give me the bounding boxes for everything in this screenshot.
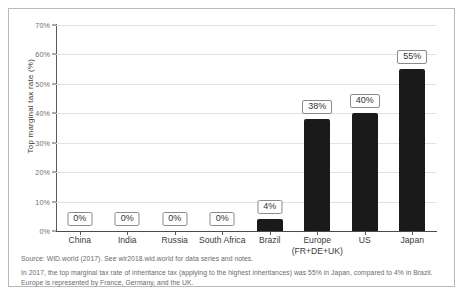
bar-group: 38% <box>294 25 342 231</box>
data-label-us: 40% <box>350 94 380 108</box>
category-label-line1: South Africa <box>199 235 245 245</box>
y-tick-label: 20% <box>35 168 50 177</box>
y-tick-label: 70% <box>35 21 50 30</box>
plot-area: 0%10%20%30%40%50%60%70% 0%0%0%0%4%38%40%… <box>56 25 436 231</box>
y-tick-label: 40% <box>35 109 50 118</box>
bar-group: 0% <box>151 25 199 231</box>
data-label-russia: 0% <box>162 212 187 226</box>
bar-group: 4% <box>246 25 294 231</box>
data-label-south-africa: 0% <box>210 212 235 226</box>
category-label-line1: China <box>69 235 91 245</box>
chart-notes: Source: WID.world (2017). See wir2018.wi… <box>21 254 451 287</box>
data-label-china: 0% <box>67 212 92 226</box>
bar-us[interactable] <box>352 113 378 231</box>
description-note: In 2017, the top marginal tax rate of in… <box>21 268 451 287</box>
category-label-line1: Japan <box>401 235 424 245</box>
bar-group: 0% <box>199 25 247 231</box>
y-tick-label: 10% <box>35 197 50 206</box>
chart-figure: Top marginal tax rate (%) 0%10%20%30%40%… <box>8 8 455 287</box>
category-label-russia: Russia <box>162 235 188 246</box>
category-label-line1: Brazil <box>259 235 281 245</box>
y-tick-label: 30% <box>35 138 50 147</box>
category-label-japan: Japan <box>401 235 424 246</box>
data-label-japan: 55% <box>397 50 427 64</box>
bar-group: 0% <box>56 25 104 231</box>
category-label-europe: Europe(FR+DE+UK) <box>292 235 343 256</box>
category-label-china: China <box>69 235 91 246</box>
bar-group: 0% <box>104 25 152 231</box>
data-label-europe-fr-de-uk: 38% <box>302 100 332 114</box>
category-label-us: US <box>359 235 371 246</box>
gridline-0% <box>56 231 436 232</box>
bar-group: 55% <box>389 25 437 231</box>
y-tick-label: 50% <box>35 79 50 88</box>
category-label-south-africa: South Africa <box>199 235 245 246</box>
category-label-line1: US <box>359 235 371 245</box>
data-label-india: 0% <box>115 212 140 226</box>
category-label-line1: Russia <box>162 235 188 245</box>
source-note: Source: WID.world (2017). See wir2018.wi… <box>21 254 451 263</box>
category-label-line1: India <box>118 235 137 245</box>
bar-group: 40% <box>341 25 389 231</box>
y-tick-label: 0% <box>39 227 50 236</box>
bar-brazil[interactable] <box>257 219 283 231</box>
category-label-brazil: Brazil <box>259 235 281 246</box>
bar-europe-fr-de-uk[interactable] <box>304 119 330 231</box>
data-label-brazil: 4% <box>257 200 282 214</box>
category-label-line1: Europe <box>303 235 331 245</box>
category-label-india: India <box>118 235 137 246</box>
y-tick-label: 60% <box>35 50 50 59</box>
bar-japan[interactable] <box>399 69 425 231</box>
